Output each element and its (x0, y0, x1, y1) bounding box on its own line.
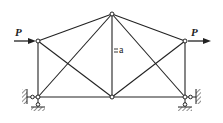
dimension-label: a (119, 45, 123, 55)
member-left-top-chord (38, 14, 112, 41)
right-wall-hatch (196, 89, 201, 104)
right-load-label: P (191, 27, 198, 38)
truss-diagram (0, 0, 223, 123)
node-bottom-center (110, 95, 114, 99)
member-right-top-chord (112, 14, 185, 41)
right-ground-hatch (178, 107, 192, 111)
node-left-bottom (36, 95, 40, 99)
member-left-diagonal-up (38, 14, 112, 97)
member-left-diagonal-down (38, 41, 112, 97)
node-right-top (183, 39, 187, 43)
truss-members (38, 14, 185, 97)
left-arrowhead-icon (28, 38, 36, 44)
member-right-diagonal-down (112, 14, 185, 97)
left-ground-hatch (31, 107, 45, 111)
node-top-center (110, 12, 114, 16)
node-right-bottom (183, 95, 187, 99)
right-arrowhead-icon (203, 38, 211, 44)
dimension-marker (114, 49, 118, 52)
left-load-label: P (15, 27, 22, 38)
node-left-top (36, 39, 40, 43)
left-wall-hatch (22, 89, 27, 104)
